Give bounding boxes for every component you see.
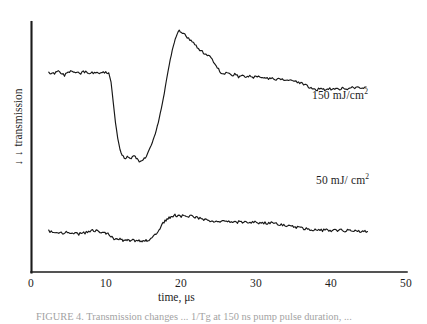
y-axis-title: ↓ ↓ transmission <box>9 57 27 197</box>
x-axis-title: time, μs <box>158 291 195 303</box>
y-axis-arrow-2: ↓ <box>12 151 23 157</box>
x-tick-label-10: 10 <box>89 277 123 289</box>
x-tick-label-50: 50 <box>389 277 423 289</box>
plot-canvas <box>0 0 427 324</box>
figure-caption: FIGURE 4. Transmission changes ... 1/Tg … <box>36 313 352 322</box>
x-tick-label-30: 30 <box>239 277 273 289</box>
lower-trace-label-text: 50 mJ/ cm <box>316 174 365 186</box>
x-tick-label-0: 0 <box>14 277 48 289</box>
lower-trace-label: 50 mJ/ cm2 <box>316 174 369 186</box>
lower-trace-label-exponent: 2 <box>365 172 369 181</box>
upper-trace-label: 150 mJ/cm2 <box>312 89 368 101</box>
upper-trace-label-text: 150 mJ/cm <box>312 89 364 101</box>
trace-50-mJ-cm2 <box>49 214 368 242</box>
y-axis-title-text: transmission <box>12 88 24 146</box>
caption-strip: FIGURE 4. Transmission changes ... 1/Tg … <box>0 313 427 324</box>
y-axis-arrow-1: ↓ <box>12 160 23 166</box>
figure-root: ↓ ↓ transmission 0 10 20 30 40 50 time, … <box>0 0 427 324</box>
upper-trace-label-exponent: 2 <box>364 87 368 96</box>
x-tick-label-20: 20 <box>164 277 198 289</box>
x-tick-label-40: 40 <box>314 277 348 289</box>
